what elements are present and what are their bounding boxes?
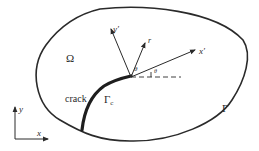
crack-face-gamma-c-label: Γc xyxy=(104,93,113,107)
crack-face-subscript: c xyxy=(110,99,113,107)
orientation-theta: θ xyxy=(154,68,157,74)
polar-theta-label: θ xyxy=(134,65,138,73)
global-x-label: x xyxy=(36,128,41,138)
domain-boundary xyxy=(36,7,247,141)
domain-omega-label: Ω xyxy=(66,52,74,64)
polar-r-label: r xyxy=(148,36,152,45)
crack-text-label: crack xyxy=(65,93,87,104)
crack-domain-diagram: Ω Γ crack Γc y′ r x′ θ θ y x xyxy=(0,0,259,151)
global-y-label: y xyxy=(18,104,23,114)
orientation-angle-label: θ xyxy=(154,68,157,74)
local-y-label: y′ xyxy=(112,24,120,34)
local-y-axis-arrow xyxy=(111,29,131,77)
boundary-gamma-label: Γ xyxy=(222,102,228,114)
local-x-label: x′ xyxy=(198,46,206,56)
